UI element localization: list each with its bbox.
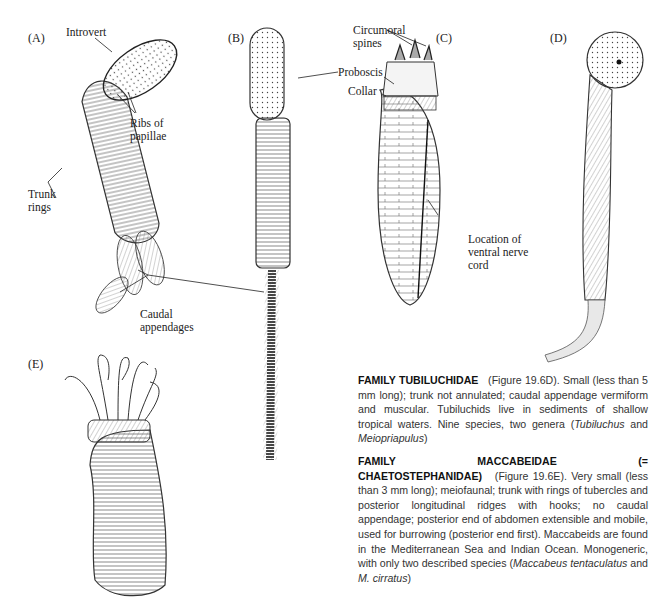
panel-label-a: (A) [28, 32, 45, 45]
callout-caudal-line1: Caudal [140, 308, 194, 321]
heading-tubiluchidae: FAMILY TUBILUCHIDAE [358, 374, 478, 386]
callout-trunk-rings: Trunk rings [28, 188, 56, 214]
panel-label-d: (D) [550, 32, 567, 45]
family-descriptions: FAMILY TUBILUCHIDAE (Figure 19.6D). Smal… [358, 373, 648, 593]
callout-ribs-line1: Ribs of [130, 117, 166, 130]
conjunction: and [627, 557, 648, 569]
callout-nerve-line3: cord [468, 259, 528, 272]
callout-circumoral-line2: spines [353, 37, 405, 50]
callout-circumoral-line1: Circumoral [353, 24, 405, 37]
callout-proboscis: Proboscis [338, 66, 383, 79]
callout-nerve-line1: Location of [468, 233, 528, 246]
panel-label-b: (B) [228, 32, 244, 45]
callout-trunk-line1: Trunk [28, 188, 56, 201]
genus-tubiluchus: Tubiluchus [574, 418, 624, 430]
paragraph-tubiluchidae: FAMILY TUBILUCHIDAE (Figure 19.6D). Smal… [358, 373, 648, 446]
close-paren: ) [407, 572, 411, 584]
close-paren: ) [424, 432, 428, 444]
species-maccabeus-tentaculatus: Maccabeus tentaculatus [513, 557, 627, 569]
callout-collar: Collar [348, 85, 377, 98]
callout-introvert: Introvert [66, 26, 106, 39]
callout-ribs-of-papillae: Ribs of papillae [130, 117, 166, 143]
paragraph-maccabeidae: FAMILY MACCABEIDAE (= CHAETOSTEPHANIDAE)… [358, 454, 648, 585]
panel-label-c: (C) [436, 32, 452, 45]
figure-b-priapulid [250, 28, 290, 460]
callout-nerve-line2: ventral nerve [468, 246, 528, 259]
genus-meiopriapulus: Meiopriapulus [358, 432, 424, 444]
species-m-cirratus: M. cirratus [358, 572, 407, 584]
callout-circumoral-spines: Circumoral spines [353, 24, 405, 50]
textbook-page: (A) (B) (C) (D) (E) Introvert Ribs of pa… [0, 0, 661, 606]
maccabeidae-body: (Figure 19.6E). Very small (less than 3 … [358, 470, 648, 570]
callout-trunk-line2: rings [28, 201, 56, 214]
figure-e-maccabeus [65, 355, 166, 596]
conjunction: and [625, 418, 648, 430]
callout-caudal-appendages: Caudal appendages [140, 308, 194, 334]
figure-d-tubiluchus [545, 32, 643, 362]
callout-ventral-nerve-cord: Location of ventral nerve cord [468, 233, 528, 272]
panel-label-e: (E) [28, 358, 43, 371]
callout-caudal-line2: appendages [140, 321, 194, 334]
figure-a-priapulus [79, 28, 187, 318]
callout-ribs-line2: papillae [130, 130, 166, 143]
